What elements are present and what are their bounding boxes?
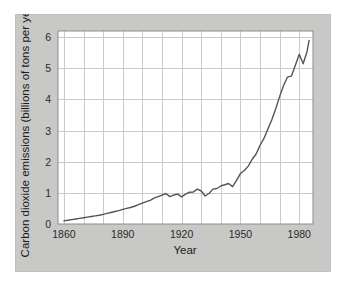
y-tick-label-4: 4 [45, 93, 51, 105]
y-tick-label-6: 6 [45, 31, 51, 43]
plot-area-background [58, 31, 313, 224]
x-tick-label-1980: 1980 [288, 228, 312, 240]
x-tick-label-1920: 1920 [170, 228, 194, 240]
y-tick-label-1: 1 [45, 187, 51, 199]
y-tick-label-2: 2 [45, 156, 51, 168]
y-tick-label-5: 5 [45, 62, 51, 74]
x-tick-label-1950: 1950 [229, 228, 253, 240]
x-tick-label-1860: 1860 [52, 228, 76, 240]
x-tick-label-1890: 1890 [111, 228, 135, 240]
y-tick-label-3: 3 [45, 125, 51, 137]
figure-canvas: 18601890192019501980 0123456 Year Carbon… [0, 0, 345, 287]
y-tick-labels: 0123456 [45, 31, 51, 230]
x-axis-title: Year [173, 244, 196, 256]
co2-emissions-line-chart: 18601890192019501980 0123456 Year Carbon… [15, 14, 331, 272]
x-tick-labels: 18601890192019501980 [52, 228, 311, 240]
y-tick-label-0: 0 [45, 218, 51, 230]
y-axis-title: Carbon dioxide emissions (billions of to… [19, 14, 31, 257]
